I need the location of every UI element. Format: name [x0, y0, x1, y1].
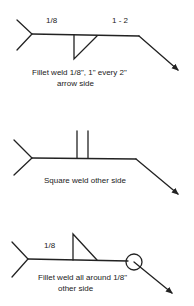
pitch-label: 1 - 2	[112, 16, 129, 25]
weld-symbol-square-other-side: Square weld other side	[14, 131, 178, 194]
reference-line	[32, 158, 136, 159]
reference-line	[32, 34, 139, 36]
weld-symbols-diagram: 1/8 1 - 2 Fillet weld 1/8", 1" every 2" …	[0, 0, 194, 306]
tail-icon	[17, 20, 32, 50]
arrow-line	[134, 262, 172, 293]
fillet-triangle-icon	[73, 234, 97, 260]
caption-line-1: Square weld other side	[44, 176, 126, 185]
tail-icon	[14, 140, 32, 175]
reference-line	[28, 259, 128, 261]
tail-icon	[12, 242, 28, 277]
arrow-line	[136, 159, 178, 194]
weld-symbol-fillet-arrow-side: 1/8 1 - 2 Fillet weld 1/8", 1" every 2" …	[17, 16, 178, 88]
caption-line-2: arrow side	[57, 79, 94, 88]
caption-line-2: other side	[58, 284, 94, 293]
size-label: 1/8	[44, 241, 56, 250]
caption-line-1: Fillet weld all around 1/8"	[38, 273, 127, 282]
fillet-triangle-icon	[74, 35, 97, 59]
weld-symbol-fillet-all-around: 1/8 Fillet weld all around 1/8" other si…	[12, 234, 172, 293]
arrow-line	[139, 36, 178, 70]
size-label: 1/8	[46, 16, 58, 25]
caption-line-1: Fillet weld 1/8", 1" every 2"	[32, 68, 127, 77]
